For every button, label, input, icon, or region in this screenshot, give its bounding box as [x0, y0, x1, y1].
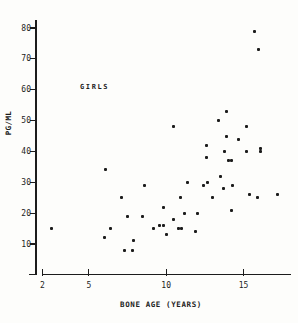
y-tick-label: 60 — [11, 85, 31, 94]
series-annotation-girls: GIRLS — [80, 83, 109, 91]
y-tick-label: 10 — [11, 240, 31, 249]
y-axis-title: PG/ML — [4, 103, 16, 143]
y-tick-label: 70 — [11, 54, 31, 63]
data-point — [217, 119, 220, 122]
data-point — [230, 159, 233, 162]
data-point — [165, 233, 168, 236]
data-point — [103, 236, 106, 239]
data-point — [104, 168, 107, 171]
data-point — [179, 196, 182, 199]
data-point — [245, 125, 248, 128]
data-point — [245, 150, 248, 153]
x-axis-tick — [166, 269, 167, 276]
data-point — [141, 215, 144, 218]
data-point — [126, 215, 129, 218]
y-tick-label: 40 — [11, 147, 31, 156]
y-tick-label: 20 — [11, 209, 31, 218]
x-tick-label: 5 — [79, 281, 99, 290]
data-point — [225, 110, 228, 113]
data-point — [219, 175, 222, 178]
data-point — [183, 212, 186, 215]
data-point — [152, 227, 155, 230]
scatter-plot-scan: 1020304050607080 251015 GIRLS PG/ML BONE… — [0, 0, 298, 323]
data-point — [172, 218, 175, 221]
data-point — [256, 196, 259, 199]
data-point — [143, 184, 146, 187]
data-point — [259, 147, 262, 150]
data-point — [230, 209, 233, 212]
data-point — [253, 30, 256, 33]
data-point — [186, 181, 189, 184]
data-point — [257, 48, 260, 51]
data-point — [162, 224, 165, 227]
y-tick-label: 80 — [11, 24, 31, 33]
data-point — [237, 138, 240, 141]
data-point — [180, 227, 183, 230]
data-point — [259, 150, 262, 153]
data-point — [205, 156, 208, 159]
x-tick-label: 10 — [156, 281, 176, 290]
x-axis-title: BONE AGE (YEARS) — [99, 300, 223, 309]
x-axis-tick — [243, 269, 244, 276]
data-point — [194, 230, 197, 233]
y-axis-foot — [29, 274, 36, 276]
data-point — [109, 227, 112, 230]
data-point — [120, 196, 123, 199]
data-point — [172, 125, 175, 128]
data-point — [123, 249, 126, 252]
data-point — [248, 193, 251, 196]
data-point — [205, 144, 208, 147]
data-point — [202, 184, 205, 187]
data-point — [225, 135, 228, 138]
y-tick-label: 30 — [11, 178, 31, 187]
data-point — [276, 193, 279, 196]
data-point — [132, 239, 135, 242]
data-point — [223, 150, 226, 153]
data-point — [222, 187, 225, 190]
data-point — [231, 184, 234, 187]
x-tick-label: 2 — [32, 281, 52, 290]
x-axis-tick — [88, 269, 89, 276]
data-point — [206, 181, 209, 184]
data-point — [131, 249, 134, 252]
data-point — [162, 206, 165, 209]
x-axis-tick — [42, 269, 43, 276]
data-point — [50, 227, 53, 230]
data-point — [196, 212, 199, 215]
plot-area: 1020304050607080 251015 GIRLS PG/ML BONE… — [0, 0, 298, 323]
x-tick-label: 15 — [233, 281, 253, 290]
data-point — [211, 196, 214, 199]
